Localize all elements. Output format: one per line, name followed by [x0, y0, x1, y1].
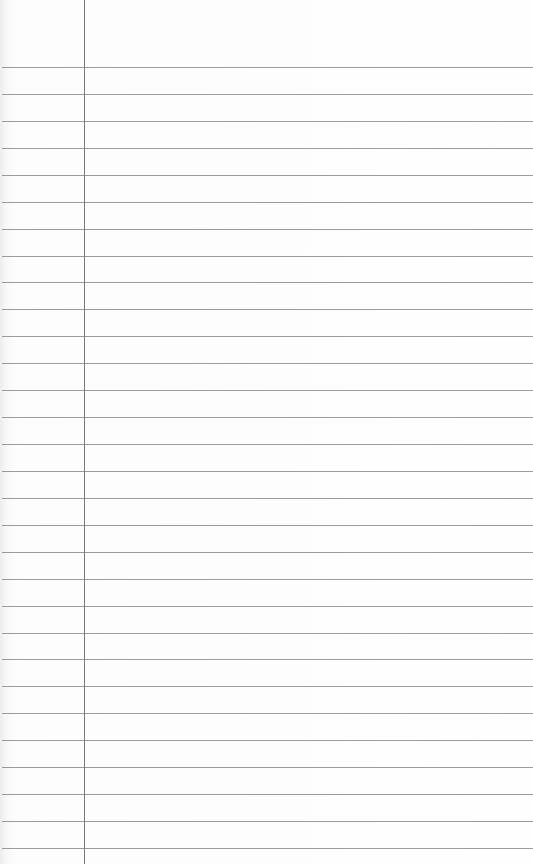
- horizontal-rule: [2, 471, 533, 472]
- horizontal-rule: [2, 633, 533, 634]
- horizontal-rule: [2, 525, 533, 526]
- horizontal-rule: [2, 282, 533, 283]
- horizontal-rule: [2, 175, 533, 176]
- horizontal-rule: [2, 579, 533, 580]
- horizontal-rule: [2, 821, 533, 822]
- horizontal-rule: [2, 336, 533, 337]
- horizontal-rule: [2, 67, 533, 68]
- horizontal-rule: [2, 390, 533, 391]
- horizontal-rule: [2, 794, 533, 795]
- horizontal-rule: [2, 229, 533, 230]
- horizontal-rule: [2, 713, 533, 714]
- horizontal-rule: [2, 256, 533, 257]
- margin-line: [84, 0, 85, 864]
- horizontal-rule: [2, 148, 533, 149]
- horizontal-rule: [2, 767, 533, 768]
- horizontal-rule: [2, 740, 533, 741]
- horizontal-rule: [2, 417, 533, 418]
- horizontal-rule: [2, 606, 533, 607]
- horizontal-rule: [2, 444, 533, 445]
- horizontal-rule: [2, 202, 533, 203]
- horizontal-rule: [2, 363, 533, 364]
- horizontal-rule: [2, 498, 533, 499]
- horizontal-rule: [2, 121, 533, 122]
- horizontal-rule: [2, 94, 533, 95]
- horizontal-rule: [2, 686, 533, 687]
- horizontal-rule: [2, 552, 533, 553]
- horizontal-rule: [2, 309, 533, 310]
- horizontal-rule: [2, 848, 533, 849]
- lined-paper: [0, 0, 533, 864]
- horizontal-rule: [2, 659, 533, 660]
